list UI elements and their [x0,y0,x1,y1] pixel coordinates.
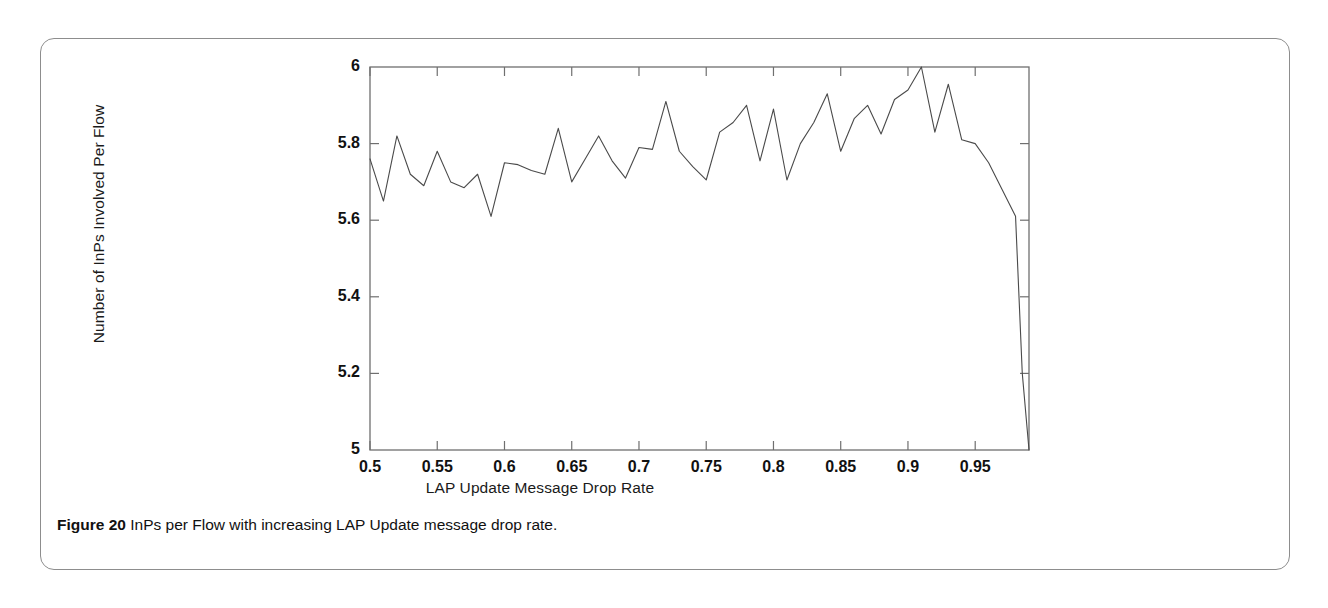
y-axis-label: Number of InPs Involved Per Flow [90,104,108,344]
y-tick-label: 5.6 [300,210,360,228]
y-tick-label: 6 [300,57,360,75]
x-tick-label: 0.5 [335,458,405,476]
y-tick-label: 5.2 [300,363,360,381]
chart-plot-area: 0.50.550.60.650.70.750.80.850.90.95 55.2… [41,39,1291,571]
y-tick-label: 5.4 [300,287,360,305]
figure-caption-text: InPs per Flow with increasing LAP Update… [130,516,557,533]
data-series-line [370,67,1029,450]
y-tick-label: 5.8 [300,134,360,152]
y-tick-label: 5 [300,440,360,458]
y-axis-ticks [370,144,1029,374]
x-tick-label: 0.95 [940,458,1010,476]
x-tick-label: 0.9 [873,458,943,476]
x-tick-label: 0.6 [469,458,539,476]
x-tick-label: 0.65 [537,458,607,476]
x-axis-label: LAP Update Message Drop Rate [330,479,750,497]
figure-caption-label: Figure 20 [57,516,126,533]
figure-frame: 0.50.550.60.650.70.750.80.850.90.95 55.2… [40,38,1290,570]
x-tick-label: 0.75 [671,458,741,476]
x-tick-label: 0.7 [604,458,674,476]
figure-caption: Figure 20 InPs per Flow with increasing … [57,516,557,534]
x-tick-label: 0.8 [738,458,808,476]
x-tick-label: 0.85 [806,458,876,476]
x-tick-label: 0.55 [402,458,472,476]
plot-box-border [370,67,1029,450]
